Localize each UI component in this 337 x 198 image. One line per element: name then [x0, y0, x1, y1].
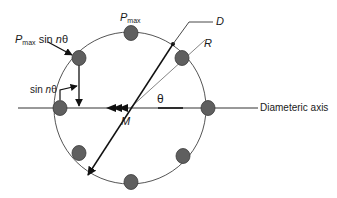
- ball-bottom-left: [72, 146, 86, 161]
- pmax-sin-subscript: max: [22, 39, 35, 46]
- sin-theta: θ: [51, 84, 57, 95]
- ball-bottom-right: [176, 149, 190, 164]
- ball-left: [53, 101, 67, 116]
- ball-top: [124, 26, 138, 41]
- label-d: D: [216, 16, 224, 27]
- label-m: M: [121, 116, 130, 127]
- label-r: R: [204, 38, 212, 49]
- ball-top-right: [175, 51, 189, 66]
- ball-top-left: [72, 51, 86, 66]
- label-sin-ntheta: sin nθ: [30, 85, 57, 95]
- pmax-sin-theta: θ: [62, 33, 68, 45]
- ball-right: [201, 101, 215, 116]
- ball-bottom: [124, 175, 138, 190]
- resultant-line-d: [88, 44, 173, 175]
- sin-ntheta-pointer: [60, 86, 77, 100]
- diagram-canvas: [0, 0, 337, 198]
- label-pmax-sin-ntheta: Pmax sin nθ: [15, 34, 68, 46]
- pmax-subscript: max: [127, 17, 140, 24]
- radius-line-r: [130, 40, 205, 108]
- pmax-sin-word: sin: [36, 33, 56, 45]
- label-theta: θ: [157, 93, 164, 105]
- label-pmax: Pmax: [120, 12, 141, 24]
- sin-word: sin: [30, 84, 46, 95]
- label-diametric-axis: Diameteric axis: [260, 103, 328, 113]
